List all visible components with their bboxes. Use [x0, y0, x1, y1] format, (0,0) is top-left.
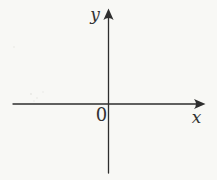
- speckle: [36, 97, 38, 99]
- speckle: [42, 91, 43, 92]
- speckle: [13, 46, 15, 48]
- y-axis-label: y: [89, 4, 100, 24]
- coordinate-plane-figure: y x 0: [0, 0, 217, 180]
- speckle: [33, 100, 34, 101]
- speckle: [30, 93, 32, 95]
- axes-svg: y x 0: [0, 0, 217, 180]
- x-axis-label: x: [192, 107, 202, 127]
- origin-label: 0: [96, 104, 107, 125]
